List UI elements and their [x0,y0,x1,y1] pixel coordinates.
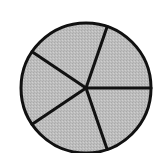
divided-circle-diagram [0,0,163,153]
